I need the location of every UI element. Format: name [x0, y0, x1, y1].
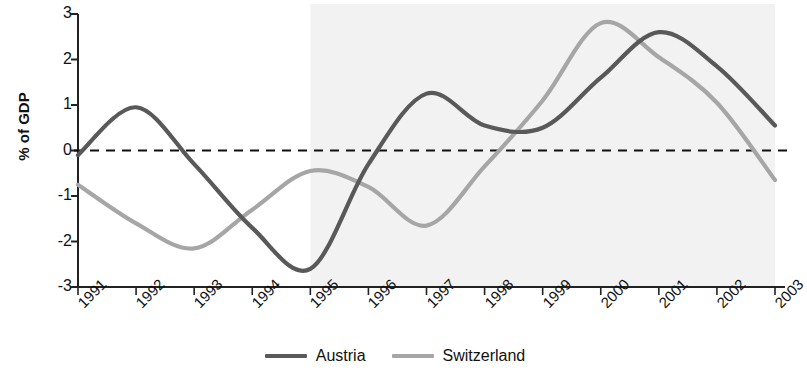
chart-legend: AustriaSwitzerland [0, 348, 790, 364]
legend-swatch-icon [265, 354, 307, 358]
legend-item[interactable]: Austria [265, 348, 366, 364]
legend-item[interactable]: Switzerland [392, 348, 526, 364]
legend-label: Austria [316, 348, 366, 364]
legend-swatch-icon [392, 354, 434, 358]
legend-label: Switzerland [443, 348, 526, 364]
